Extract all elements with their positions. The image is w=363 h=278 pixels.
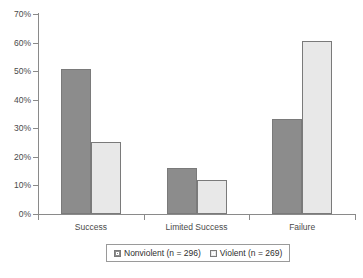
y-axis-tick-label: 40% bbox=[0, 95, 31, 104]
plot-area bbox=[38, 14, 355, 214]
x-axis-tick bbox=[355, 215, 356, 220]
y-axis-tick-label: 20% bbox=[0, 153, 31, 162]
legend-swatch-icon bbox=[114, 250, 121, 257]
chart-figure: 0%10%20%30%40%50%60%70% SuccessLimited S… bbox=[0, 0, 363, 278]
legend-swatch-icon bbox=[210, 250, 217, 257]
legend-label: Violent (n = 269) bbox=[220, 249, 282, 258]
x-axis-category-label: Limited Success bbox=[144, 222, 250, 232]
chart-legend: Nonviolent (n = 296)Violent (n = 269) bbox=[106, 244, 290, 262]
y-axis-tick-label: 0% bbox=[0, 210, 31, 219]
y-axis-tick-label: 70% bbox=[0, 10, 31, 19]
y-axis-tick-label: 60% bbox=[0, 38, 31, 47]
bar-success-series-2 bbox=[91, 142, 121, 214]
x-axis-line bbox=[38, 214, 356, 215]
x-axis-tick bbox=[144, 215, 145, 220]
bar-failure-series-1 bbox=[272, 119, 302, 214]
y-axis-tick-label: 10% bbox=[0, 181, 31, 190]
legend-label: Nonviolent (n = 296) bbox=[124, 249, 201, 258]
x-axis-tick bbox=[38, 215, 39, 220]
x-axis-category-label: Success bbox=[38, 222, 144, 232]
legend-item[interactable]: Violent (n = 269) bbox=[210, 249, 282, 258]
bar-limited-success-series-2 bbox=[197, 180, 227, 214]
bar-failure-series-2 bbox=[302, 41, 332, 214]
x-axis-tick bbox=[249, 215, 250, 220]
legend-item[interactable]: Nonviolent (n = 296) bbox=[114, 249, 201, 258]
y-axis-tick-label: 30% bbox=[0, 124, 31, 133]
x-axis-category-label: Failure bbox=[249, 222, 355, 232]
bar-success-series-1 bbox=[61, 69, 91, 214]
y-axis-tick-label: 50% bbox=[0, 67, 31, 76]
bar-limited-success-series-1 bbox=[167, 168, 197, 214]
